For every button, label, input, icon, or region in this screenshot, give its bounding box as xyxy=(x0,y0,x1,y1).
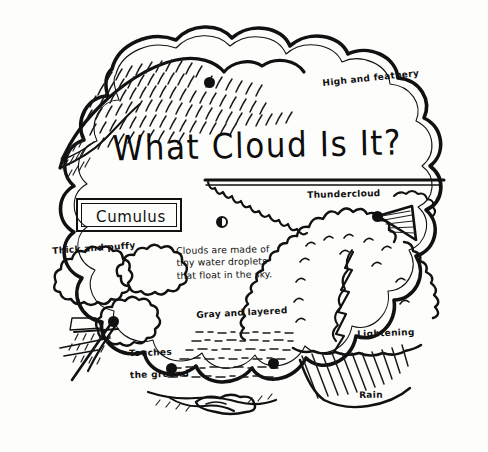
touches-line-2: the ground xyxy=(130,368,190,380)
lightning-bolt xyxy=(334,252,353,352)
label-thundercloud: Thundercloud xyxy=(307,188,381,200)
label-rain: Rain xyxy=(359,390,383,400)
label-lightening: Lightening xyxy=(357,327,415,339)
touches-line-1: Touches xyxy=(129,347,172,358)
worksheet-page: What Cloud Is It? Cumulus Clouds are mad… xyxy=(0,0,488,452)
label-touches-the-ground: Touches the ground xyxy=(108,335,190,393)
cirrus-cloud-drawing xyxy=(60,58,304,179)
